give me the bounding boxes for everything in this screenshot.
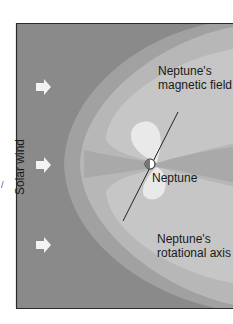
stray-mark: / [1,180,4,190]
neptune-planet [145,159,155,169]
rotational-axis-label-line2: rotational axis [157,246,231,260]
diagram-canvas [0,0,233,324]
rotational-axis-label: Neptune's rotational axis [157,232,231,260]
magnetic-field-label-line1: Neptune's [158,64,232,78]
solar-wind-label: Solar wind [13,127,27,207]
neptune-label: Neptune [152,171,197,185]
magnetic-field-label: Neptune's magnetic field [158,64,232,92]
magnetosphere-diagram: Neptune's magnetic field Neptune Neptune… [0,0,233,324]
rotational-axis-label-line1: Neptune's [157,232,231,246]
magnetic-field-label-line2: magnetic field [158,78,232,92]
